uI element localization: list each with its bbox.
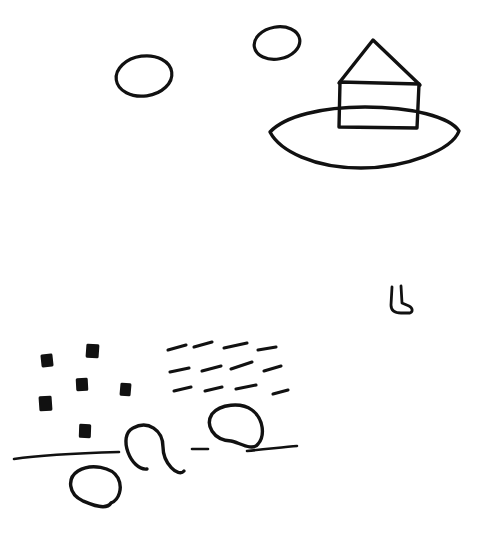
square-2: [86, 344, 100, 359]
square-5: [38, 396, 52, 412]
square-1: [40, 353, 53, 367]
sketch-drawing-surface[interactable]: [0, 0, 489, 533]
square-6: [79, 424, 91, 438]
square-4: [119, 383, 131, 397]
square-3: [76, 378, 89, 392]
sketch-canvas[interactable]: [0, 0, 489, 533]
